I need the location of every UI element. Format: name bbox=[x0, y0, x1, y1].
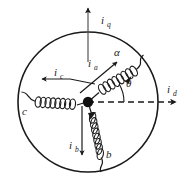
ia-leader bbox=[62, 82, 80, 93]
label-ia-subscript: a bbox=[94, 63, 98, 72]
label-ic-subscript: c bbox=[60, 72, 64, 81]
diagram-canvas: i q i d α i a b i b c i c θ bbox=[0, 0, 193, 190]
label-c-axis: c bbox=[22, 105, 27, 117]
current-arrow-ic bbox=[42, 79, 95, 84]
phase-b-winding bbox=[88, 107, 104, 172]
label-theta: θ bbox=[126, 77, 132, 89]
label-b-axis: b bbox=[106, 148, 112, 160]
label-ia: i bbox=[88, 57, 91, 69]
label-id-subscript: d bbox=[173, 89, 177, 98]
label-ic: i bbox=[54, 66, 57, 78]
phase-c-winding bbox=[22, 92, 84, 110]
label-id: i bbox=[167, 83, 170, 95]
label-iq: i bbox=[101, 14, 104, 26]
label-ib-subscript: b bbox=[75, 145, 79, 154]
label-ib: i bbox=[69, 139, 72, 151]
label-alpha-axis: α bbox=[114, 46, 120, 58]
neutral-point-hub bbox=[83, 97, 93, 107]
theta-arc bbox=[119, 84, 124, 102]
phase-c-coil bbox=[35, 97, 76, 110]
phase-a-coil bbox=[97, 65, 139, 96]
winding-axes-diagram: i q i d α i a b i b c i c θ bbox=[0, 0, 193, 190]
theta-leg bbox=[88, 67, 148, 102]
label-iq-subscript: q bbox=[107, 20, 111, 29]
phase-b-coil bbox=[89, 112, 105, 160]
